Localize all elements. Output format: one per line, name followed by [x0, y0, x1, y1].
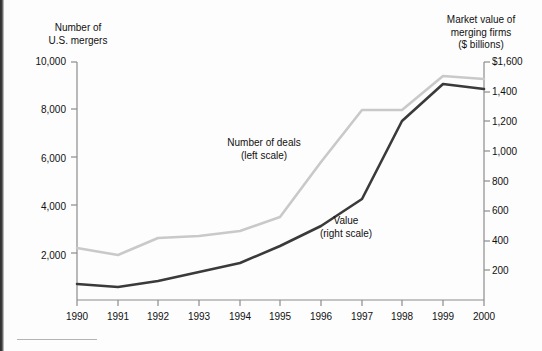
series-line-value [77, 84, 484, 287]
left-axis-ticks [71, 62, 77, 253]
series-annotation-number-of-deals: Number of deals (left scale) [203, 137, 325, 162]
series-annotation-value: Value (right scale) [300, 215, 392, 240]
merger-activity-chart-figure: Number of U.S. mergers Market value of m… [0, 0, 542, 351]
x-axis-ticks [77, 300, 484, 306]
footer-divider [17, 339, 97, 340]
chart-plot-area [0, 0, 542, 351]
right-axis-ticks [484, 62, 490, 270]
